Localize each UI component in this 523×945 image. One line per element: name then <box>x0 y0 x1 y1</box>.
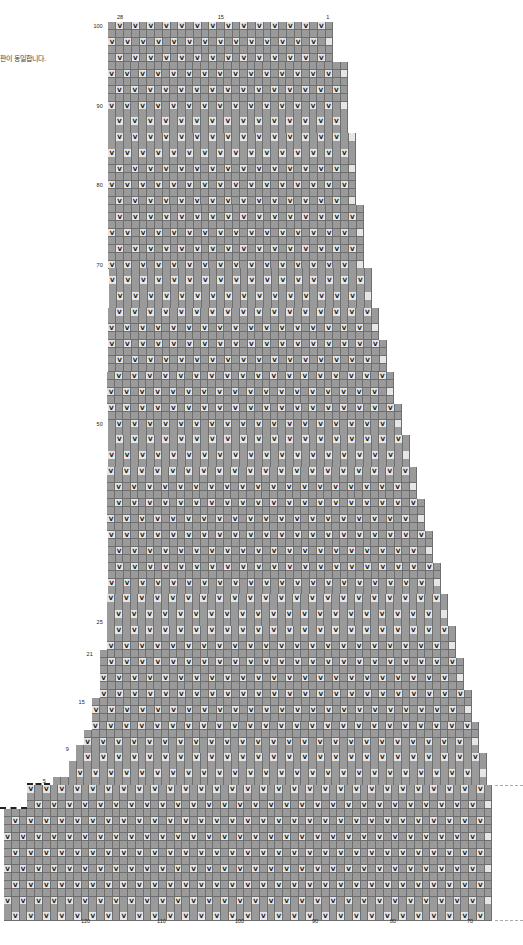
slip-stitch-symbol: V <box>360 833 368 841</box>
slip-stitch-symbol: V <box>340 388 348 396</box>
slip-stitch-symbol: V <box>108 149 116 157</box>
slip-stitch-symbol: V <box>43 785 51 793</box>
slip-stitch-symbol: V <box>115 499 123 507</box>
slip-stitch-symbol: V <box>286 133 294 141</box>
slip-stitch-symbol: V <box>348 499 356 507</box>
slip-stitch-symbol: V <box>348 372 356 380</box>
slip-stitch-symbol: V <box>333 356 341 364</box>
slip-stitch-symbol: V <box>200 467 208 475</box>
slip-stitch-symbol: V <box>394 674 402 682</box>
slip-stitch-symbol: V <box>402 642 410 650</box>
slip-stitch-symbol: V <box>244 881 252 889</box>
slip-stitch-symbol: V <box>294 340 302 348</box>
slip-stitch-symbol: V <box>138 722 146 730</box>
slip-stitch-symbol: V <box>256 22 264 30</box>
slip-stitch-symbol: V <box>255 117 263 125</box>
slip-stitch-symbol: V <box>247 324 255 332</box>
slip-stitch-symbol: V <box>279 340 287 348</box>
slip-stitch-symbol: V <box>348 753 356 761</box>
slip-stitch-symbol: V <box>132 54 140 62</box>
slip-stitch-symbol: V <box>325 404 333 412</box>
slip-stitch-symbol: V <box>200 515 208 523</box>
slip-stitch-symbol: V <box>433 769 441 777</box>
slip-stitch-symbol: V <box>240 356 248 364</box>
slip-stitch-symbol: V <box>201 102 209 110</box>
slip-stitch-symbol: V <box>240 245 248 253</box>
slip-stitch-symbol: V <box>286 356 294 364</box>
slip-stitch-symbol: V <box>201 70 209 78</box>
slip-stitch-symbol: V <box>123 70 131 78</box>
slip-stitch-symbol: V <box>309 70 317 78</box>
slip-stitch-symbol: V <box>193 308 201 316</box>
slip-stitch-symbol: V <box>115 626 123 634</box>
slip-stitch-symbol: V <box>314 833 322 841</box>
slip-stitch-symbol: V <box>341 340 349 348</box>
slip-stitch-symbol: V <box>260 849 268 857</box>
slip-stitch-symbol: V <box>239 483 247 491</box>
slip-stitch-symbol: V <box>185 451 193 459</box>
slip-stitch-symbol: V <box>267 833 275 841</box>
slip-stitch-symbol: V <box>151 785 159 793</box>
slip-stitch-symbol: V <box>209 690 217 698</box>
slip-stitch-symbol: V <box>430 881 438 889</box>
slip-stitch-symbol: V <box>130 738 138 746</box>
slip-stitch-symbol: V <box>340 658 348 666</box>
chart-cell <box>438 912 446 920</box>
slip-stitch-symbol: V <box>417 594 425 602</box>
slip-stitch-symbol: V <box>264 276 272 284</box>
slip-stitch-symbol: V <box>364 690 372 698</box>
slip-stitch-symbol: V <box>116 54 124 62</box>
slip-stitch-symbol: V <box>364 435 372 443</box>
slip-stitch-symbol: V <box>260 881 268 889</box>
slip-stitch-symbol: V <box>43 817 51 825</box>
slip-stitch-symbol: V <box>371 531 379 539</box>
slip-stitch-symbol: V <box>402 706 410 714</box>
slip-stitch-symbol: V <box>337 849 345 857</box>
slip-stitch-symbol: V <box>294 531 302 539</box>
slip-stitch-symbol: V <box>337 881 345 889</box>
slip-stitch-symbol: V <box>348 563 356 571</box>
slip-stitch-symbol: V <box>92 769 100 777</box>
slip-stitch-symbol: V <box>317 86 325 94</box>
slip-stitch-symbol: V <box>422 801 430 809</box>
slip-stitch-symbol: V <box>425 753 433 761</box>
slip-stitch-symbol: V <box>477 881 485 889</box>
slip-stitch-symbol: V <box>162 197 170 205</box>
slip-stitch-symbol: V <box>341 149 349 157</box>
bind-off-marker <box>0 807 27 809</box>
slip-stitch-symbol: V <box>123 722 131 730</box>
slip-stitch-symbol: V <box>239 738 247 746</box>
slip-stitch-symbol: V <box>378 738 386 746</box>
slip-stitch-symbol: V <box>364 356 372 364</box>
slip-stitch-symbol: V <box>278 642 286 650</box>
slip-stitch-symbol: V <box>317 626 325 634</box>
slip-stitch-symbol: V <box>317 690 325 698</box>
slip-stitch-symbol: V <box>333 117 341 125</box>
slip-stitch-symbol: V <box>194 245 202 253</box>
slip-stitch-symbol: V <box>27 849 35 857</box>
slip-stitch-symbol: V <box>170 340 178 348</box>
slip-stitch-symbol: V <box>453 865 461 873</box>
slip-stitch-symbol: V <box>294 261 302 269</box>
slip-stitch-symbol: V <box>216 769 224 777</box>
slip-stitch-symbol: V <box>208 547 216 555</box>
slip-stitch-symbol: V <box>169 769 177 777</box>
slip-stitch-symbol: V <box>271 356 279 364</box>
slip-stitch-symbol: V <box>155 149 163 157</box>
slip-stitch-symbol: V <box>209 54 217 62</box>
slip-stitch-symbol: V <box>356 579 364 587</box>
slip-stitch-symbol: V <box>332 610 340 618</box>
slip-stitch-symbol: V <box>302 690 310 698</box>
slip-stitch-symbol: V <box>386 594 394 602</box>
slip-stitch-symbol: V <box>363 547 371 555</box>
slip-stitch-symbol: V <box>341 276 349 284</box>
slip-stitch-symbol: V <box>425 626 433 634</box>
slip-stitch-symbol: V <box>293 642 301 650</box>
slip-stitch-symbol: V <box>279 181 287 189</box>
slip-stitch-symbol: V <box>309 451 317 459</box>
slip-stitch-symbol: V <box>107 594 115 602</box>
slip-stitch-symbol: V <box>216 594 224 602</box>
slip-stitch-symbol: V <box>66 833 74 841</box>
chart-cell <box>174 912 182 920</box>
slip-stitch-symbol: V <box>353 785 361 793</box>
